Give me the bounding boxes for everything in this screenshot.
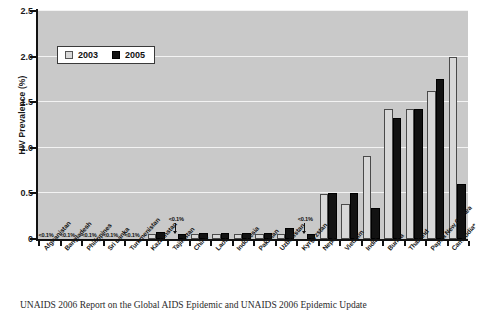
legend-item-2005: 2005 [112,50,145,60]
legend-label-2005: 2005 [125,50,145,60]
x-tick-mark-19 [468,241,470,246]
x-tick-mark-11 [296,241,298,246]
y-tick-mark-1.0 [30,147,37,149]
x-tick-mark-18 [447,241,449,246]
annotation-arrow-head-tajikistan [173,231,177,234]
x-tick-mark-origin [38,241,40,246]
x-tick-mark-8 [232,241,234,246]
bar-2005-thailand [414,109,423,239]
bar-2005-burma [393,118,402,239]
x-tick-mark-10 [275,241,277,246]
x-tick-mark-12 [318,241,320,246]
x-tick-mark-15 [382,241,384,246]
x-tick-mark-9 [253,241,255,246]
x-tick-mark-2 [103,241,105,246]
bar-2003-cambodia- [449,57,458,239]
bar-2003-india- [363,156,372,239]
bar-2003-thailand [406,109,415,239]
x-tick-mark-4 [146,241,148,246]
legend-label-2003: 2003 [78,50,98,60]
x-tick-mark-17 [425,241,427,246]
bar-2003-papua-new-guinea [427,91,436,239]
chart-legend: 2003 2005 [57,46,155,64]
y-tick-mark-0.5 [30,192,37,194]
x-tick-mark-14 [361,241,363,246]
figure-caption: UNAIDS 2006 Report on the Global AIDS Ep… [20,300,470,310]
y-tick-mark-1.5 [30,101,37,103]
annotation-arrow-head-kyrgyzstan [302,231,306,234]
bar-2003-pakistan [255,234,264,239]
bar-2005-papua-new-guinea [436,79,445,239]
x-tick-mark-13 [339,241,341,246]
x-tick-mark-6 [189,241,191,246]
y-axis-tick-labels: 00.51.01.52.02.5 [0,0,36,240]
x-tick-mark-7 [210,241,212,246]
legend-swatch-2005 [112,51,120,59]
x-axis-tick-labels: AfghanistanBangladeshPhilippinesSri Lank… [38,245,468,307]
bar-2003-vietnam [341,204,350,239]
bar-2005-nepal [328,193,337,239]
y-tick-mark-0 [30,238,37,240]
x-tick-mark-16 [404,241,406,246]
legend-item-2003: 2003 [65,50,98,60]
x-tick-mark-3 [124,241,126,246]
x-tick-mark-1 [81,241,83,246]
x-tick-mark-0 [60,241,62,246]
bar-2003-laos [212,234,221,239]
bar-2003-burma [384,109,393,239]
legend-swatch-2003 [65,51,73,59]
x-tick-mark-5 [167,241,169,246]
y-tick-mark-2.5 [30,10,37,12]
y-tick-mark-2.0 [30,56,37,58]
